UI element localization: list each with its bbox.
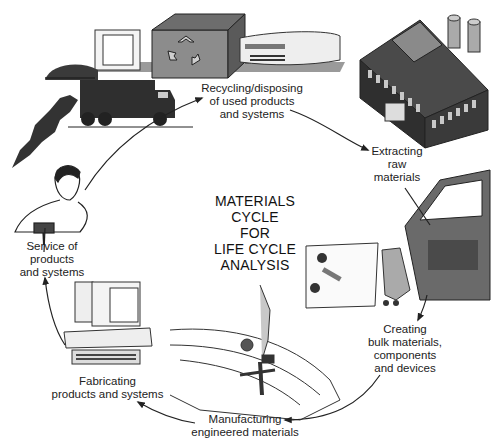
factory-illustration <box>360 15 488 148</box>
label-line: of used products <box>198 95 306 108</box>
arrow-fabricating-to-service <box>45 278 65 345</box>
label-line: and systems <box>12 266 92 279</box>
car-door-illustration <box>306 170 490 308</box>
label-line: materials <box>362 171 432 184</box>
label-line: products and systems <box>50 388 165 401</box>
label-line: and devices <box>355 362 455 375</box>
stage-label-service: Service of products and systems <box>12 240 92 279</box>
label-line: Recycling/disposing <box>198 82 306 95</box>
title-line-1: MATERIALS <box>200 193 310 209</box>
stage-label-manufacturing: Manufacturing engineered materials <box>185 413 305 439</box>
stage-label-fabricating: Fabricating products and systems <box>50 375 165 401</box>
recycling-machine-illustration <box>45 14 345 80</box>
title-line-4: LIFE CYCLE <box>200 241 310 257</box>
stage-label-recycling: Recycling/disposing of used products and… <box>198 82 306 121</box>
label-line: Fabricating <box>50 375 165 388</box>
label-line: engineered materials <box>185 426 305 439</box>
title-line-5: ANALYSIS <box>200 257 310 273</box>
label-line: Creating <box>355 323 455 336</box>
title-line-3: FOR <box>200 225 310 241</box>
label-line: products <box>12 253 92 266</box>
label-line: components <box>355 349 455 362</box>
technician-illustration <box>15 166 87 245</box>
label-line: raw <box>362 158 432 171</box>
materials-cycle-diagram: MATERIALS CYCLE FOR LIFE CYCLE ANALYSIS … <box>0 0 494 447</box>
stage-label-extracting: Extracting raw materials <box>362 145 432 184</box>
computer-illustration <box>64 282 152 364</box>
diagram-title: MATERIALS CYCLE FOR LIFE CYCLE ANALYSIS <box>200 193 310 273</box>
stage-label-creating: Creating bulk materials, components and … <box>355 323 455 375</box>
label-line: Manufacturing <box>185 413 305 426</box>
label-line: Extracting <box>362 145 432 158</box>
garbage-truck-illustration <box>12 78 193 168</box>
label-line: bulk materials, <box>355 336 455 349</box>
label-line: and systems <box>198 108 306 121</box>
title-line-2: CYCLE <box>200 209 310 225</box>
label-line: Service of <box>12 240 92 253</box>
